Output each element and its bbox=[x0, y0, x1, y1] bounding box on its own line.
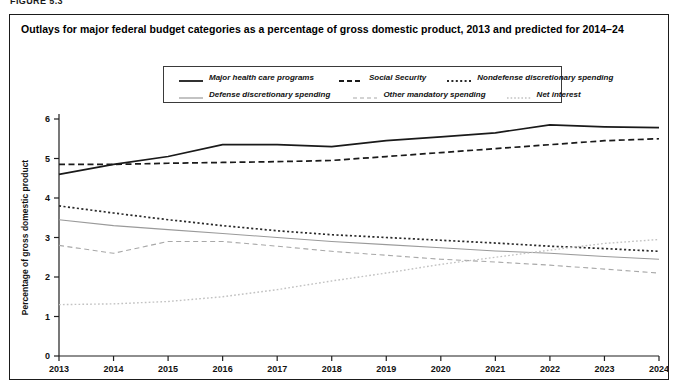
line-chart: 0123456201320142015201620172018201920202… bbox=[10, 15, 668, 379]
series-line-social-security bbox=[59, 139, 659, 165]
x-tick-label: 2014 bbox=[104, 364, 124, 374]
x-tick-label: 2022 bbox=[540, 364, 560, 374]
x-tick-label: 2015 bbox=[158, 364, 178, 374]
y-tick-label: 0 bbox=[45, 351, 50, 361]
x-tick-label: 2019 bbox=[376, 364, 396, 374]
figure-number-label: FIGURE 5.3 bbox=[10, 0, 63, 6]
x-tick-label: 2024 bbox=[649, 364, 668, 374]
x-tick-label: 2013 bbox=[49, 364, 69, 374]
y-tick-label: 4 bbox=[45, 193, 50, 203]
figure-panel: Outlays for major federal budget categor… bbox=[9, 14, 669, 380]
x-tick-label: 2018 bbox=[322, 364, 342, 374]
figure-root: FIGURE 5.3 Outlays for major federal bud… bbox=[0, 0, 678, 387]
y-tick-label: 6 bbox=[45, 114, 50, 124]
x-tick-label: 2017 bbox=[267, 364, 287, 374]
y-tick-label: 1 bbox=[45, 312, 50, 322]
y-tick-label: 5 bbox=[45, 154, 50, 164]
x-tick-label: 2016 bbox=[213, 364, 233, 374]
x-tick-label: 2020 bbox=[431, 364, 451, 374]
y-tick-label: 2 bbox=[45, 272, 50, 282]
y-axis-title: Percentage of gross domestic product bbox=[20, 160, 30, 316]
series-line-other-mandatory-spending bbox=[59, 241, 659, 273]
x-tick-label: 2021 bbox=[485, 364, 505, 374]
series-line-net-interest bbox=[59, 239, 659, 304]
x-tick-label: 2023 bbox=[594, 364, 614, 374]
series-line-major-health-care-programs bbox=[59, 125, 659, 174]
y-tick-label: 3 bbox=[45, 233, 50, 243]
